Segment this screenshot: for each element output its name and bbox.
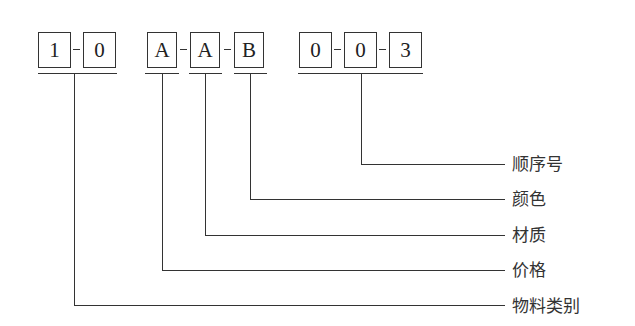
group-underline-category (38, 73, 117, 74)
separator-dash (180, 49, 187, 50)
leader-horizontal-sequence (361, 164, 505, 165)
separator-dash (73, 49, 80, 50)
label-category: 物料类别 (512, 296, 580, 316)
label-color: 颜色 (512, 189, 546, 209)
code-box-sequence-3: 3 (389, 32, 422, 68)
leader-horizontal-category (74, 305, 505, 306)
leader-horizontal-color (250, 199, 505, 200)
code-box-category-1: 1 (38, 32, 71, 68)
leader-vertical-sequence (361, 73, 362, 165)
code-box-color: B (234, 32, 264, 68)
code-box-price: A (147, 32, 177, 68)
leader-vertical-category (74, 73, 75, 306)
separator-dash (334, 49, 341, 50)
code-box-sequence-2: 0 (344, 32, 377, 68)
leader-vertical-price (162, 73, 163, 271)
label-price: 价格 (512, 260, 546, 280)
leader-vertical-color (250, 73, 251, 200)
leader-horizontal-price (162, 270, 505, 271)
label-material: 材质 (512, 225, 546, 245)
separator-dash (379, 49, 386, 50)
separator-dash (224, 49, 231, 50)
code-box-category-2: 0 (83, 32, 116, 68)
leader-horizontal-material (205, 235, 505, 236)
leader-vertical-material (205, 73, 206, 236)
code-box-sequence-1: 0 (299, 32, 332, 68)
label-sequence: 顺序号 (512, 154, 563, 174)
code-box-material: A (190, 32, 220, 68)
